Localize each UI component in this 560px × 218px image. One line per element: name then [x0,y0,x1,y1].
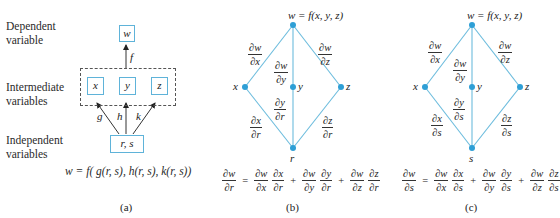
equals-sign: = [420,175,430,186]
label-dependent: Dependent variable [6,19,56,47]
edge-c-dx-ds: ∂x∂s [431,113,443,138]
label-independent: Independent variables [6,133,63,161]
composite-formula: w = f( g(r, s), h(r, s), k(r, s)) [65,164,191,178]
label-intermediate-line1: Intermediate [6,80,64,94]
term-b-3b: ∂z∂r [368,168,379,193]
edge-label-k: k [136,110,141,122]
box-y: y [119,77,136,95]
node-label-c-x: x [413,80,418,92]
equals-sign: = [240,175,250,186]
edge-b-dw-dy: ∂w∂y [274,60,288,85]
caption-c: (c) [465,201,477,213]
node-label-b-x: x [233,80,238,92]
box-z: z [151,77,168,95]
term-c-3b: ∂z∂s [548,168,559,193]
node-b-z [338,84,344,90]
term-c-2b: ∂y∂s [500,168,512,193]
edge-label-g: g [97,110,103,122]
term-c-1a: ∂w∂x [434,168,448,193]
label-dependent-line2: variable [6,33,56,47]
term-b-2a: ∂w∂y [302,168,316,193]
node-b-w [290,22,296,28]
node-c-y [469,84,475,90]
node-b-x [242,84,248,90]
term-c-1b: ∂x∂s [452,168,464,193]
node-c-z [517,84,523,90]
caption-b: (b) [286,201,299,213]
top-label-c: w = f(x, y, z) [467,9,522,21]
label-independent-line1: Independent [6,133,63,147]
node-b-r [290,145,296,151]
plus-sign: + [288,175,298,186]
box-x: x [87,77,104,95]
node-label-c-y: y [477,80,482,92]
edge-c-dw-dy: ∂w∂y [453,58,467,83]
node-label-b-r: r [290,152,294,164]
plus-sign: + [468,175,478,186]
chain-rule-equation-c: ∂w∂s = ∂w∂x ∂x∂s + ∂w∂y ∂y∂s + ∂w∂z ∂z∂s [402,168,560,193]
edge-c-dw-dx: ∂w∂x [428,40,442,65]
edge-b-dw-dz: ∂w∂z [318,42,332,67]
box-rs: r, s [110,135,144,153]
term-c-3a: ∂w∂z [530,168,544,193]
edge-label-h: h [117,110,123,122]
top-label-b: w = f(x, y, z) [288,9,343,21]
plus-sign: + [516,175,526,186]
label-intermediate-line2: variables [6,94,64,108]
label-independent-line2: variables [6,147,63,161]
node-c-s [469,145,475,151]
edge-label-f: f [130,51,133,63]
node-label-b-z: z [346,80,350,92]
edge-b-dx-dr: ∂x∂r [250,115,262,140]
node-b-y [290,84,296,90]
label-dependent-line1: Dependent [6,19,56,33]
node-label-b-y: y [298,80,303,92]
node-label-c-z: z [525,80,529,92]
term-b-1b: ∂x∂r [272,168,284,193]
box-w: w [119,25,135,42]
plus-sign: + [336,175,346,186]
term-c-2a: ∂w∂y [482,168,496,193]
caption-a: (a) [120,201,132,213]
term-b-3a: ∂w∂z [350,168,364,193]
lhs-b: ∂w∂r [222,168,236,193]
edge-c-dw-dz: ∂w∂z [498,40,512,65]
lhs-c: ∂w∂s [402,168,416,193]
edge-c-dy-ds: ∂y∂s [453,97,465,122]
edge-b-dw-dx: ∂w∂x [248,42,262,67]
node-c-w [469,22,475,28]
term-b-1a: ∂w∂x [254,168,268,193]
edge-b-dz-dr: ∂z∂r [322,115,333,140]
edge-b-dy-dr: ∂y∂r [274,97,286,122]
node-c-x [422,84,428,90]
term-b-2b: ∂y∂r [320,168,332,193]
node-label-c-s: s [469,152,473,164]
label-intermediate: Intermediate variables [6,80,64,108]
edge-c-dz-ds: ∂z∂s [501,113,512,138]
chain-rule-equation-b: ∂w∂r = ∂w∂x ∂x∂r + ∂w∂y ∂y∂r + ∂w∂z ∂z∂r [222,168,380,193]
